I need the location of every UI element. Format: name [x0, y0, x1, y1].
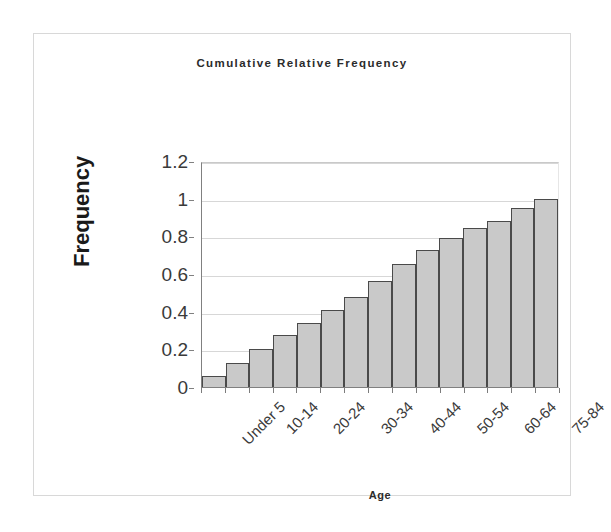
chart-title: Cumulative Relative Frequency [34, 57, 570, 69]
y-axis-title: Frequency [69, 237, 95, 267]
bar[interactable] [416, 250, 440, 387]
x-tick-mark [225, 388, 226, 393]
y-tick-label: 0.6 [162, 264, 188, 286]
x-tick-label: 40-44 [425, 398, 464, 437]
plot-area [201, 162, 559, 388]
x-tick-mark [464, 388, 465, 393]
x-tick-mark [344, 388, 345, 393]
x-tick-mark [201, 388, 202, 393]
bar[interactable] [534, 199, 558, 387]
x-tick-mark [320, 388, 321, 393]
y-tick-label: 1.2 [162, 151, 188, 173]
y-tick-label: 0.4 [162, 302, 188, 324]
x-tick-label: 75-84 [568, 398, 607, 437]
bar[interactable] [463, 228, 487, 387]
x-tick-mark [559, 388, 560, 393]
x-tick-mark [273, 388, 274, 393]
bar[interactable] [249, 349, 273, 387]
y-tick-label: 0.8 [162, 226, 188, 248]
y-tick-mark [189, 200, 194, 201]
bar[interactable] [321, 310, 345, 387]
x-tick-label: Under 5 [239, 398, 289, 448]
bar[interactable] [226, 363, 250, 387]
bar[interactable] [297, 323, 321, 387]
x-axis-title: Age [201, 489, 559, 501]
x-tick-mark [392, 388, 393, 393]
x-tick-label: 20-24 [330, 398, 369, 437]
x-tick-mark [249, 388, 250, 393]
x-tick-label: 30-34 [377, 398, 416, 437]
y-tick-mark [189, 162, 194, 163]
y-tick-mark [189, 313, 194, 314]
bar[interactable] [344, 297, 368, 387]
bar-series [202, 163, 558, 387]
y-tick-label: 1 [177, 189, 188, 211]
x-tick-label: 10-14 [282, 398, 321, 437]
x-tick-mark [511, 388, 512, 393]
x-tick-mark [487, 388, 488, 393]
bar[interactable] [202, 376, 226, 387]
chart-frame: Cumulative Relative Frequency Frequency … [33, 33, 571, 496]
x-tick-mark [368, 388, 369, 393]
bar[interactable] [273, 335, 297, 387]
bar[interactable] [511, 208, 535, 387]
y-tick-mark [189, 275, 194, 276]
bar[interactable] [368, 281, 392, 387]
x-tick-mark [416, 388, 417, 393]
bar[interactable] [392, 264, 416, 387]
bar[interactable] [439, 238, 463, 387]
x-tick-label: 60-64 [521, 398, 560, 437]
x-tick-mark [535, 388, 536, 393]
x-tick-mark [296, 388, 297, 393]
x-tick-mark [440, 388, 441, 393]
x-axis-tick-labels: Under 510-1420-2430-3440-4450-5460-6475-… [201, 394, 559, 474]
y-tick-label: 0 [177, 377, 188, 399]
y-tick-mark [189, 237, 194, 238]
y-tick-mark [189, 388, 194, 389]
x-tick-label: 50-54 [473, 398, 512, 437]
bar[interactable] [487, 221, 511, 387]
y-tick-mark [189, 350, 194, 351]
y-tick-label: 0.2 [162, 339, 188, 361]
y-axis-tick-labels: 00.20.40.60.811.2 [134, 162, 194, 388]
